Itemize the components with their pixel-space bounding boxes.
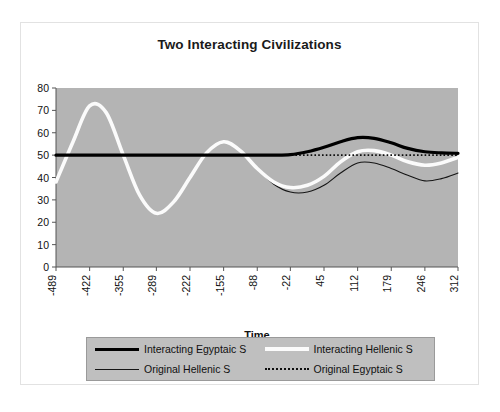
svg-text:179: 179 — [381, 275, 393, 293]
legend-swatch-icon — [265, 343, 309, 355]
svg-text:80: 80 — [37, 82, 49, 94]
svg-text:-489: -489 — [46, 275, 58, 296]
legend-swatch-icon — [95, 363, 139, 375]
legend-label: Original Hellenic S — [144, 364, 230, 375]
svg-text:-422: -422 — [80, 275, 92, 296]
svg-text:312: 312 — [448, 275, 460, 293]
legend-item: Interacting Hellenic S — [261, 339, 431, 359]
svg-text:60: 60 — [37, 127, 49, 139]
legend-label: Interacting Hellenic S — [314, 344, 413, 355]
svg-text:-222: -222 — [180, 275, 192, 296]
svg-text:246: 246 — [415, 275, 427, 293]
svg-text:0: 0 — [43, 261, 49, 273]
svg-text:20: 20 — [37, 216, 49, 228]
svg-text:-289: -289 — [146, 275, 158, 296]
svg-text:112: 112 — [348, 275, 360, 292]
svg-text:-355: -355 — [113, 275, 125, 296]
legend-item: Original Hellenic S — [91, 359, 261, 379]
legend-item: Original Egyptaic S — [261, 359, 431, 379]
legend-swatch-icon — [265, 363, 309, 375]
svg-text:-155: -155 — [214, 275, 226, 296]
legend-label: Original Egyptaic S — [314, 364, 403, 375]
chart-plot-area: 01020304050607080-489-422-355-289-222-15… — [21, 23, 478, 384]
chart-legend: Interacting Egyptaic S Interacting Helle… — [86, 337, 435, 381]
svg-text:40: 40 — [37, 172, 49, 184]
legend-swatch-icon — [95, 343, 139, 355]
legend-label: Interacting Egyptaic S — [144, 344, 246, 355]
svg-text:30: 30 — [37, 194, 49, 206]
svg-text:-88: -88 — [247, 275, 259, 290]
svg-text:-22: -22 — [280, 275, 292, 290]
svg-text:50: 50 — [37, 149, 49, 161]
chart-frame: Two Interacting Civilizations 0102030405… — [20, 22, 479, 385]
svg-text:45: 45 — [314, 275, 326, 287]
svg-text:10: 10 — [37, 239, 49, 251]
svg-text:70: 70 — [37, 104, 49, 116]
legend-item: Interacting Egyptaic S — [91, 339, 261, 359]
